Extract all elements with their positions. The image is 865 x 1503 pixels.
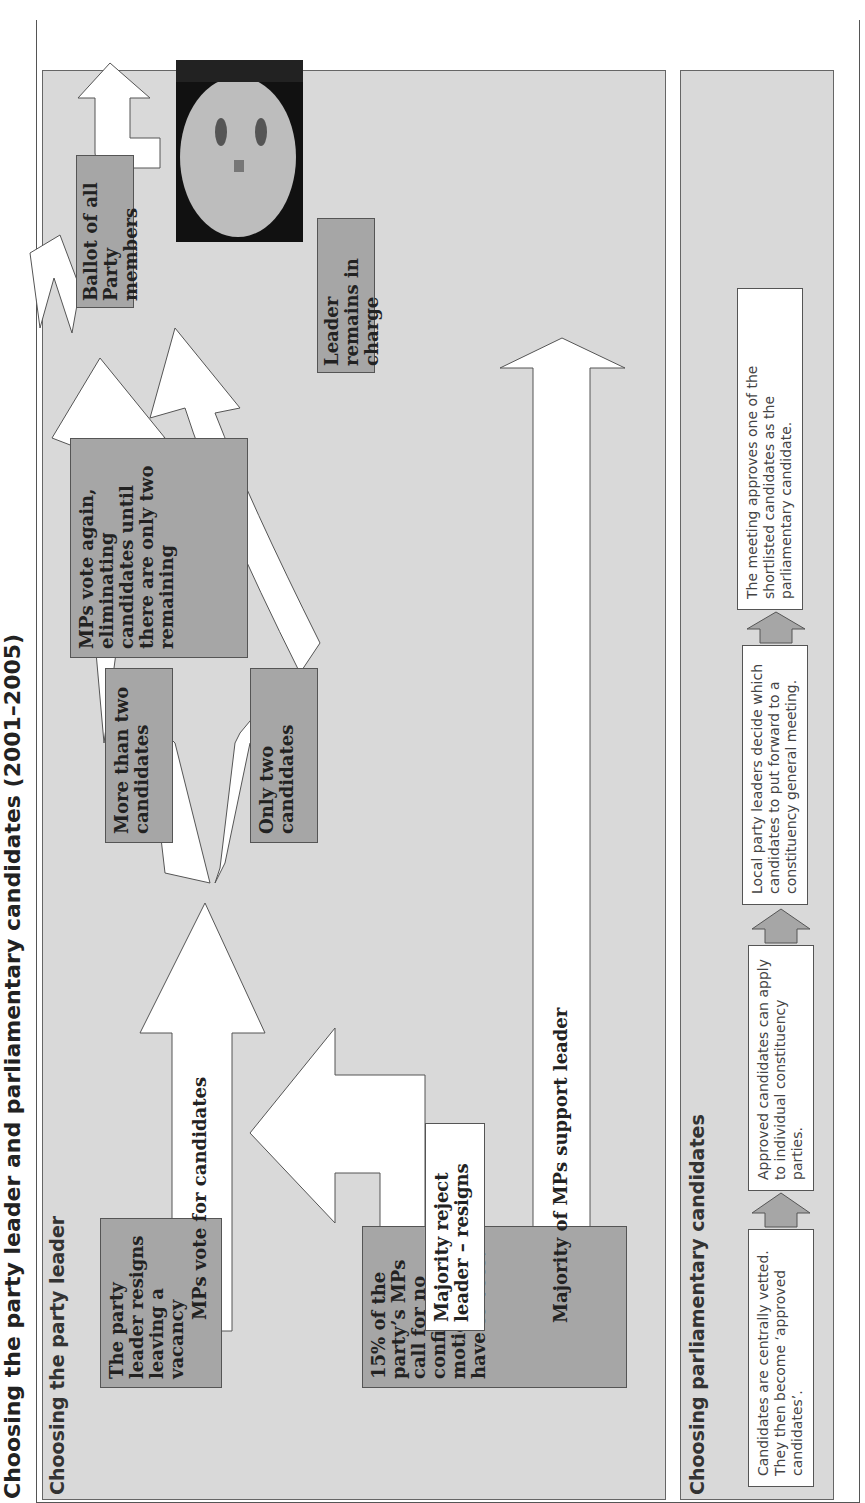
- diagram-canvas: Choosing the party leader and parliament…: [0, 0, 865, 1503]
- step-arrow-icon: [747, 612, 805, 643]
- step-arrow-icon: [752, 1193, 810, 1227]
- step-arrow-icon: [752, 909, 810, 943]
- step-arrows-layer: [0, 0, 865, 1503]
